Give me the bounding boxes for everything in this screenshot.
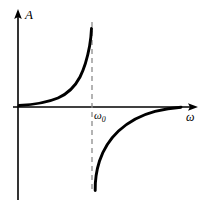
amplitude-curve-below-resonance — [19, 29, 92, 106]
resonance-curve-figure: A ω ω0 — [0, 0, 213, 206]
amplitude-curve-above-resonance — [95, 107, 181, 190]
y-axis-label: A — [25, 8, 33, 21]
resonance-tick-label: ω0 — [94, 110, 106, 124]
plot-area — [0, 0, 213, 206]
resonance-tick-label-subscript: 0 — [102, 115, 106, 124]
x-axis-label: ω — [186, 111, 194, 123]
resonance-tick-label-base: ω — [94, 109, 102, 121]
